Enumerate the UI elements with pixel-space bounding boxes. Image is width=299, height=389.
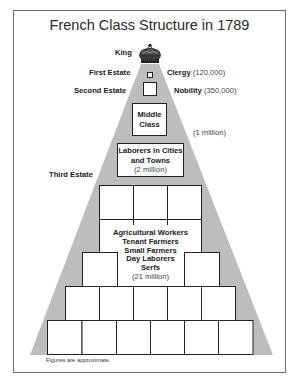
peasants-text: Agricultural Workers Tenant Farmers Smal… [99,229,202,282]
footnote: Figures are approximate. [46,357,110,363]
peasant-grid [0,0,299,389]
peasants-count: (21 million) [99,273,202,282]
